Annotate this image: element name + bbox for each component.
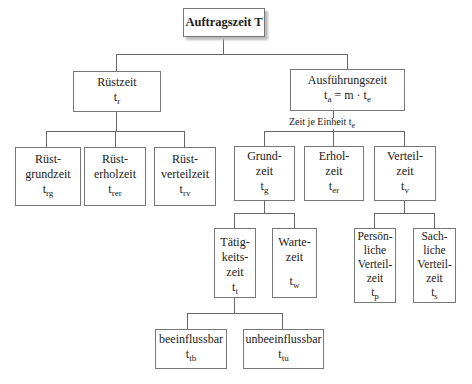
node-symbol: tw — [290, 274, 300, 293]
node-label: Erhol- — [319, 149, 350, 164]
node-label: Verteil- — [417, 257, 451, 271]
connector — [282, 313, 283, 329]
node-symbol: trg — [43, 182, 54, 201]
node-symbol: trer — [108, 182, 121, 201]
connector — [184, 131, 185, 147]
node-label: Persön- — [357, 229, 392, 243]
connector — [234, 213, 294, 214]
connector — [46, 131, 47, 147]
connector — [294, 213, 295, 228]
node-auftragszeit: Auftragszeit T — [183, 8, 265, 37]
node-label: Ausführungszeit — [308, 73, 387, 88]
connector — [434, 213, 435, 228]
connector — [234, 297, 235, 313]
connector — [223, 36, 224, 54]
node-label: Verteil- — [358, 257, 392, 271]
node-label: zeit — [426, 271, 443, 285]
connector — [264, 200, 265, 213]
connector — [374, 213, 434, 214]
node-label-group: Warte- zeit — [278, 235, 310, 265]
node-label: grundzeit — [25, 167, 70, 182]
connector — [404, 131, 405, 146]
node-ruesterholzeit: Rüst- erholzeit trer — [84, 147, 146, 206]
node-label: zeit — [220, 265, 249, 280]
node-verteilzeit: Verteil- zeit tv — [374, 146, 436, 201]
node-label: Sach- — [421, 229, 447, 243]
node-label: Rüstzeit — [97, 75, 136, 90]
connector — [347, 54, 348, 69]
node-symbol: ttu — [278, 347, 288, 366]
connector — [404, 200, 405, 213]
node-label: zeit — [367, 271, 384, 285]
node-label: Rüst- — [172, 152, 198, 167]
node-label: unbeeinflussbar — [246, 332, 322, 347]
per-unit-label: Zeit je Einheit te — [289, 116, 355, 130]
node-label: beeinflussbar — [159, 332, 223, 347]
node-sachliche-verteilzeit: Sach- liche Verteil- zeit ts — [413, 228, 456, 303]
node-label: zeit — [256, 164, 273, 179]
node-label: Rüst- — [102, 152, 128, 167]
connector — [234, 213, 235, 228]
connector — [333, 131, 334, 146]
node-symbol: tt — [232, 280, 238, 299]
node-label: Warte- — [278, 235, 310, 250]
node-label: Grund- — [247, 149, 282, 164]
node-symbol: ttb — [186, 347, 196, 366]
node-symbol: tp — [371, 285, 379, 303]
node-label: zeit — [396, 164, 413, 179]
node-label-group: Tätig- keits- zeit — [220, 235, 249, 280]
connector — [116, 111, 117, 131]
node-unbeeinflussbar: unbeeinflussbar ttu — [243, 329, 324, 369]
node-symbol: trv — [180, 182, 191, 201]
node-ruestverteilzeit: Rüst- verteilzeit trv — [154, 147, 216, 206]
node-symbol: tv — [401, 179, 409, 198]
node-symbol: tg — [261, 179, 269, 198]
node-persoenliche-verteilzeit: Persön- liche Verteil- zeit tp — [354, 228, 396, 303]
node-label: zeit — [278, 250, 310, 265]
connector — [116, 54, 117, 71]
node-ruestzeit: Rüstzeit tr — [73, 71, 161, 112]
node-label: keits- — [220, 250, 249, 265]
node-formula: ta = m · te — [324, 88, 371, 107]
node-label: erholzeit — [94, 167, 136, 182]
connector — [374, 213, 375, 228]
node-label: zeit — [325, 164, 342, 179]
connector — [187, 313, 282, 314]
node-wartezeit: Warte- zeit tw — [272, 228, 317, 298]
node-label: Tätig- — [220, 235, 249, 250]
connector — [264, 131, 404, 132]
node-beeinflussbar: beeinflussbar ttb — [155, 329, 227, 369]
node-ruestgrundzeit: Rüst- grundzeit trg — [15, 147, 81, 206]
node-symbol: tr — [114, 90, 120, 109]
connector — [116, 54, 348, 55]
node-symbol: ts — [431, 285, 438, 303]
connector — [264, 131, 265, 146]
node-label: Verteil- — [387, 149, 423, 164]
connector — [115, 131, 116, 147]
node-label: Rüst- — [35, 152, 61, 167]
node-label: liche — [423, 243, 445, 257]
node-label: Auftragszeit T — [185, 15, 262, 30]
node-symbol: ter — [329, 179, 339, 198]
connector — [187, 313, 188, 329]
node-ausfuehrungszeit: Ausführungszeit ta = m · te — [290, 69, 405, 111]
node-taetigkeitszeit: Tätig- keits- zeit tt — [214, 228, 256, 298]
node-label: liche — [364, 243, 386, 257]
node-erholzeit: Erhol- zeit ter — [304, 146, 364, 201]
node-label: verteilzeit — [161, 167, 209, 182]
node-grundzeit: Grund- zeit tg — [234, 146, 295, 201]
